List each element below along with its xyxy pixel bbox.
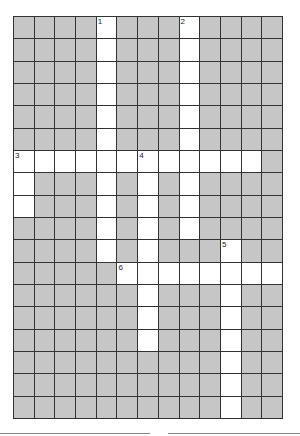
crossword-block	[117, 196, 138, 218]
crossword-cell[interactable]	[180, 39, 201, 61]
crossword-block	[262, 240, 283, 262]
crossword-cell[interactable]	[200, 263, 221, 285]
crossword-block	[55, 129, 76, 151]
crossword-cell[interactable]	[14, 173, 35, 195]
crossword-block	[138, 39, 159, 61]
crossword-cell[interactable]: 1	[97, 17, 118, 39]
crossword-cell[interactable]	[138, 263, 159, 285]
crossword-block	[55, 307, 76, 329]
crossword-block	[242, 397, 263, 419]
answer-line	[168, 433, 300, 434]
crossword-block	[138, 17, 159, 39]
crossword-cell[interactable]	[221, 374, 242, 396]
crossword-block	[35, 196, 56, 218]
crossword-block	[200, 374, 221, 396]
crossword-block	[242, 17, 263, 39]
crossword-cell[interactable]	[76, 151, 97, 173]
crossword-cell[interactable]	[221, 151, 242, 173]
crossword-cell[interactable]	[221, 352, 242, 374]
crossword-cell[interactable]	[97, 129, 118, 151]
crossword-cell[interactable]	[138, 307, 159, 329]
crossword-cell[interactable]	[138, 173, 159, 195]
crossword-block	[138, 129, 159, 151]
crossword-block	[262, 129, 283, 151]
crossword-block	[14, 330, 35, 352]
crossword-cell[interactable]	[97, 218, 118, 240]
crossword-block	[35, 285, 56, 307]
crossword-cell[interactable]	[221, 307, 242, 329]
crossword-cell[interactable]	[221, 263, 242, 285]
crossword-block	[76, 352, 97, 374]
crossword-block	[200, 129, 221, 151]
crossword-cell[interactable]: 3	[14, 151, 35, 173]
crossword-block	[35, 129, 56, 151]
crossword-cell[interactable]	[97, 173, 118, 195]
crossword-cell[interactable]	[14, 196, 35, 218]
crossword-block	[242, 39, 263, 61]
crossword-block	[159, 39, 180, 61]
crossword-cell[interactable]	[138, 240, 159, 262]
crossword-block	[200, 173, 221, 195]
crossword-block	[262, 39, 283, 61]
crossword-cell[interactable]	[221, 285, 242, 307]
crossword-cell[interactable]	[97, 196, 118, 218]
crossword-cell[interactable]	[97, 62, 118, 84]
crossword-block	[117, 84, 138, 106]
crossword-block	[14, 106, 35, 128]
crossword-block	[76, 84, 97, 106]
crossword-block	[55, 285, 76, 307]
crossword-cell[interactable]: 5	[221, 240, 242, 262]
crossword-block	[200, 39, 221, 61]
crossword-block	[262, 173, 283, 195]
crossword-cell[interactable]: 4	[138, 151, 159, 173]
crossword-cell[interactable]	[180, 106, 201, 128]
crossword-cell[interactable]	[221, 397, 242, 419]
crossword-block	[14, 62, 35, 84]
crossword-block	[55, 62, 76, 84]
crossword-cell[interactable]	[55, 151, 76, 173]
crossword-cell[interactable]: 2	[180, 17, 201, 39]
crossword-cell[interactable]	[97, 151, 118, 173]
crossword-cell[interactable]	[180, 218, 201, 240]
crossword-cell[interactable]	[97, 39, 118, 61]
crossword-cell[interactable]	[138, 196, 159, 218]
crossword-cell[interactable]	[180, 263, 201, 285]
crossword-cell[interactable]	[97, 240, 118, 262]
crossword-cell[interactable]	[97, 106, 118, 128]
clue-number: 6	[118, 263, 122, 272]
crossword-block	[180, 352, 201, 374]
crossword-block	[200, 307, 221, 329]
crossword-cell[interactable]	[138, 285, 159, 307]
crossword-block	[55, 17, 76, 39]
crossword-cell[interactable]	[242, 151, 263, 173]
crossword-block	[180, 397, 201, 419]
crossword-cell[interactable]: 6	[117, 263, 138, 285]
crossword-block	[200, 285, 221, 307]
crossword-block	[35, 106, 56, 128]
crossword-cell[interactable]	[159, 263, 180, 285]
crossword-cell[interactable]	[200, 151, 221, 173]
crossword-block	[55, 397, 76, 419]
crossword-block	[35, 218, 56, 240]
crossword-block	[76, 307, 97, 329]
crossword-block	[242, 240, 263, 262]
crossword-cell[interactable]	[117, 151, 138, 173]
crossword-cell[interactable]	[262, 263, 283, 285]
crossword-cell[interactable]	[159, 151, 180, 173]
crossword-cell[interactable]	[97, 84, 118, 106]
crossword-cell[interactable]	[138, 218, 159, 240]
crossword-cell[interactable]	[180, 62, 201, 84]
crossword-cell[interactable]	[35, 151, 56, 173]
crossword-cell[interactable]	[180, 151, 201, 173]
crossword-block	[221, 196, 242, 218]
crossword-cell[interactable]	[242, 263, 263, 285]
crossword-block	[14, 374, 35, 396]
crossword-cell[interactable]	[221, 330, 242, 352]
crossword-cell[interactable]	[180, 129, 201, 151]
crossword-cell[interactable]	[180, 173, 201, 195]
crossword-block	[221, 17, 242, 39]
answer-line	[0, 433, 150, 434]
crossword-cell[interactable]	[180, 196, 201, 218]
crossword-cell[interactable]	[180, 84, 201, 106]
crossword-cell[interactable]	[138, 330, 159, 352]
